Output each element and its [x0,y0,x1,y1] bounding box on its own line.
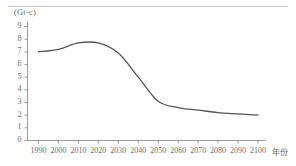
x-axis-tick-label: 2020 [90,146,106,155]
axis-ticks-group [25,27,259,144]
x-axis-tick-label: 2090 [230,146,246,155]
x-axis-tick-label: 2000 [50,146,66,155]
x-axis-tick-label: 1990 [31,146,47,155]
y-axis-tick-label: 2 [8,110,22,119]
y-axis-tick-label: 4 [8,84,22,93]
data-line-co2-emissions [39,42,259,115]
axes-group [28,22,266,141]
x-axis-tick-label: 2080 [210,146,226,155]
chart-plot-area [0,0,296,166]
x-axis-tick-label: 2070 [190,146,206,155]
y-axis-tick-label: 9 [8,21,22,30]
y-axis-tick-label: 5 [8,72,22,81]
y-axis-tick-label: 0 [8,135,22,144]
x-axis-tick-label: 2040 [130,146,146,155]
x-axis-tick-label: 2060 [170,146,186,155]
y-axis-tick-label: 3 [8,97,22,106]
y-axis-tick-label: 8 [8,34,22,43]
x-axis-tick-label: 2100 [250,146,266,155]
y-axis-tick-label: 1 [8,122,22,131]
y-axis-tick-label: 6 [8,59,22,68]
chart-figure: (Gt-c) 0123456789 1990200020102020203020… [0,0,296,166]
x-axis-tick-label: 2050 [150,146,166,155]
x-axis-tick-label: 2010 [70,146,86,155]
x-axis-title: 年份 [272,146,288,157]
x-axis-tick-label: 2030 [110,146,126,155]
y-axis-tick-label: 7 [8,46,22,55]
data-series-group [39,42,259,115]
